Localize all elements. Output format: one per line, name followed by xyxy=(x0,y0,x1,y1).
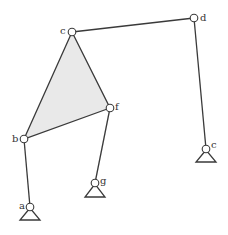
ternary-link-bcf xyxy=(24,32,110,139)
joint-g xyxy=(91,179,99,187)
label-c: c xyxy=(60,25,66,36)
label-e: c xyxy=(211,139,217,150)
link-f-g xyxy=(95,108,110,183)
joint-c xyxy=(68,28,76,36)
label-d: d xyxy=(200,12,207,23)
joint-e xyxy=(202,145,210,153)
link-c-d xyxy=(72,18,194,32)
joint-f xyxy=(106,104,114,112)
label-b: b xyxy=(12,133,18,144)
joint-d xyxy=(190,14,198,22)
joint-a xyxy=(26,203,34,211)
label-f: f xyxy=(115,101,120,112)
joint-b xyxy=(20,135,28,143)
linkage-diagram: a b c d c f g xyxy=(0,0,228,235)
label-a: a xyxy=(19,200,25,211)
link-a-b xyxy=(24,139,30,207)
label-g: g xyxy=(100,175,107,186)
link-d-e xyxy=(194,18,206,149)
